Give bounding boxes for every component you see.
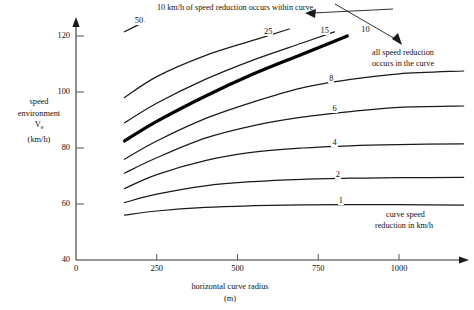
y-axis-title: speed environment Ve (km/h) (6, 96, 72, 145)
x-axis-title: horizontal curve radius (150, 282, 310, 291)
all-reduction-annotation-line2: occurs in the curve (372, 58, 434, 69)
y-tick-label-80: 80 (46, 143, 70, 152)
curve-4 (124, 144, 463, 189)
x-axis-unit: (m) (150, 294, 310, 303)
annotation-leader-left (313, 9, 393, 13)
legend-note-line1: curve speed (386, 209, 425, 220)
curve-25 (124, 29, 289, 98)
x-tick-label-1000: 1000 (379, 264, 419, 273)
curve-label-15: 15 (319, 26, 329, 35)
legend-note-line2: reduction in km/h (375, 220, 433, 231)
curve-8 (124, 71, 463, 159)
curve-label-25: 25 (263, 27, 273, 36)
y-axis-title-line2: environment (6, 108, 72, 120)
y-axis-title-line1: speed (6, 96, 72, 108)
curve-label-2: 2 (335, 170, 341, 179)
within-curve-annotation: 10 km/h of speed reduction occurs within… (157, 2, 313, 13)
y-axis-arrowhead (72, 17, 79, 27)
curve-label-1: 1 (338, 196, 344, 205)
annotations-group (305, 4, 402, 45)
y-tick-label-40: 40 (46, 255, 70, 264)
x-tick-label-250: 250 (137, 264, 177, 273)
chart-figure: 10 km/h of speed reduction occurs within… (0, 0, 474, 310)
curve-label-6: 6 (331, 104, 337, 113)
y-axis-title-line3: Ve (6, 119, 72, 134)
y-tick-label-60: 60 (46, 199, 70, 208)
x-tick-label-0: 0 (56, 264, 96, 273)
curve-label-4: 4 (331, 138, 337, 147)
y-tick-label-100: 100 (46, 87, 70, 96)
curve-6 (124, 106, 463, 173)
curve-label-8: 8 (328, 74, 334, 83)
curve-2 (124, 177, 463, 202)
x-axis-arrowhead (459, 256, 469, 263)
curve-10 (124, 36, 347, 141)
y-tick-label-120: 120 (46, 31, 70, 40)
x-tick-label-500: 500 (218, 264, 258, 273)
curve-label-50: 50 (134, 16, 144, 25)
x-tick-label-750: 750 (298, 264, 338, 273)
curve-label-10: 10 (360, 25, 370, 34)
all-reduction-annotation-line1: all speed reduction (372, 47, 434, 58)
annotation-arrowhead-right (392, 33, 402, 45)
